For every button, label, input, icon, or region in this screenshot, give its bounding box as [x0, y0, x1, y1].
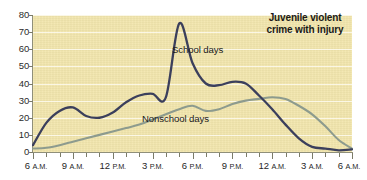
series-line-school-days	[33, 23, 352, 150]
chart-title-line-2: crime with injury	[267, 24, 344, 35]
chart-container: 01020304050607080 6 A.M.9 A.M.12 P.M.3 P…	[0, 0, 367, 180]
series-annotation-school-days: School days	[172, 44, 223, 55]
chart-title-line-1: Juvenile violent	[269, 12, 342, 23]
chart-title: Juvenile violent crime with injury	[249, 12, 361, 35]
series-annotation-nonschool-days: Nonschool days	[142, 113, 209, 124]
